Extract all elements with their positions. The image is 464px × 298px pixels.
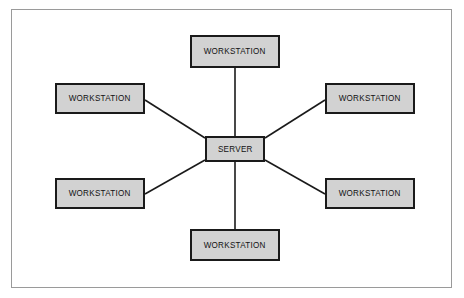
network-topology-diagram: WORKSTATIONWORKSTATIONWORKSTATIONSERVERW… [0,0,464,298]
node-workstation-bottom[interactable]: WORKSTATION [190,229,280,261]
node-label-workstation-bottom: WORKSTATION [204,241,266,250]
node-label-workstation-top-right: WORKSTATION [339,94,401,103]
node-workstation-top[interactable]: WORKSTATION [190,35,280,68]
node-workstation-bottom-left[interactable]: WORKSTATION [55,178,145,209]
node-label-server: SERVER [218,145,253,154]
link-server-workstation-top-left [145,100,205,138]
node-server[interactable]: SERVER [205,136,265,162]
node-label-workstation-bottom-left: WORKSTATION [69,189,131,198]
node-label-workstation-top-left: WORKSTATION [69,94,131,103]
node-workstation-top-right[interactable]: WORKSTATION [325,83,415,114]
node-workstation-bottom-right[interactable]: WORKSTATION [325,178,415,209]
link-server-workstation-top-right [265,100,325,138]
node-label-workstation-top: WORKSTATION [204,47,266,56]
node-label-workstation-bottom-right: WORKSTATION [339,189,401,198]
link-server-workstation-bottom-right [265,160,325,194]
link-server-workstation-bottom-left [145,160,205,194]
node-workstation-top-left[interactable]: WORKSTATION [55,83,145,114]
